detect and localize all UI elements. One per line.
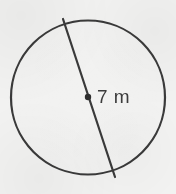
diameter-measurement-label: 7 m (97, 86, 130, 108)
center-dot (85, 94, 91, 100)
circle-diagram-canvas (0, 0, 176, 194)
geometry-figure: 7 m (0, 0, 176, 194)
